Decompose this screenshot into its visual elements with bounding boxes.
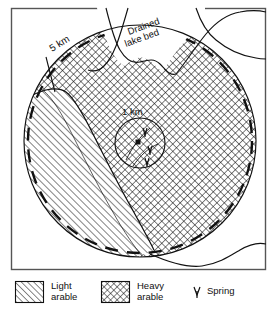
site-catchment-figure: 5 km 1 km Drained lake bed Light arable … bbox=[0, 0, 277, 310]
legend-label-heavy-line1: Heavy bbox=[137, 280, 164, 291]
site-marker bbox=[136, 140, 141, 145]
legend-label-light-line1: Light bbox=[51, 280, 72, 291]
legend-label-heavy-line2: arable bbox=[137, 291, 163, 302]
legend-swatch-light-arable bbox=[16, 282, 44, 303]
legend-label-spring: Spring bbox=[207, 285, 234, 296]
label-1km: 1 km bbox=[122, 106, 143, 117]
legend-label-light-line2: arable bbox=[51, 291, 77, 302]
legend-swatch-heavy-arable bbox=[102, 282, 130, 303]
